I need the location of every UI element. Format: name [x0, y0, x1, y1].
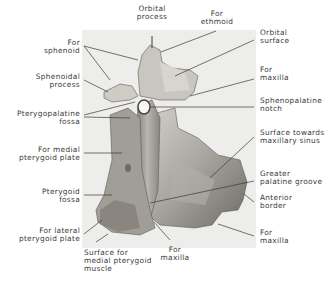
label-for-sphenoid: For sphenoid — [40, 39, 80, 55]
label-for-lateral-pterygoid-plate: For lateral pterygoid plate — [2, 227, 80, 243]
anatomy-figure: For sphenoid Sphenoidal process Pterygop… — [0, 0, 335, 281]
label-for-ethmoid: For ethmoid — [197, 10, 237, 26]
orbital-process — [138, 36, 198, 100]
label-for-maxilla-bottom: For maxilla — [155, 246, 195, 262]
label-greater-palatine-groove: Greater palatine groove — [260, 170, 335, 186]
label-sphenopalatine-notch: Sphenopalatine notch — [260, 97, 335, 113]
label-orbital-process: Orbital process — [128, 5, 176, 21]
label-pterygoid-fossa: Pterygoid fossa — [2, 188, 80, 204]
label-for-maxilla-lower-right: For maxilla — [260, 229, 335, 245]
label-surface-towards-maxillary-sinus: Surface towards maxillary sinus — [260, 129, 335, 145]
label-surface-for-medial-pterygoid-muscle: Surface for medial pterygoid muscle — [84, 249, 164, 274]
label-for-maxilla-upper: For maxilla — [260, 66, 335, 82]
label-for-medial-pterygoid-plate: For medial pterygoid plate — [2, 146, 80, 162]
sphenoidal-process — [104, 84, 138, 102]
label-orbital-surface: Orbital surface — [260, 29, 335, 45]
label-anterior-border: Anterior border — [260, 194, 335, 210]
sphenopalatine-notch-hole — [138, 100, 150, 114]
label-sphenoidal-process: Sphenoidal process — [10, 73, 80, 89]
label-pterygopalatine-fossa: Pterygopalatine fossa — [2, 110, 80, 126]
